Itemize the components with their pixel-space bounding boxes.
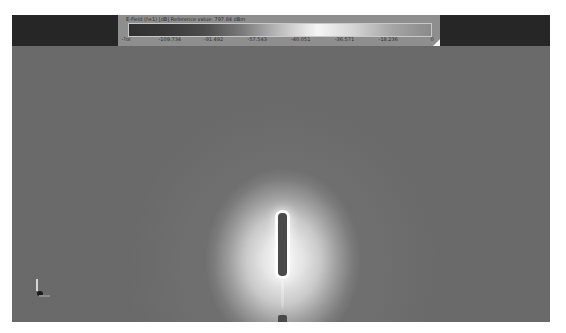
- resize-grip-icon[interactable]: [433, 39, 440, 46]
- colorbar-tick-label: -91.492: [204, 36, 223, 42]
- top-right-bar: [440, 15, 550, 46]
- top-left-bar: [12, 15, 118, 46]
- colorbar-tick-label: -40.051: [291, 36, 310, 42]
- field-plot-viewport[interactable]: E-Field (f=1) [dB] Reference value: 797.…: [12, 15, 550, 322]
- legend-title: E-Field (f=1) [dB] Reference value: 797.…: [126, 16, 245, 22]
- colorbar-tick-label: -?ol: [122, 36, 131, 42]
- antenna-element: [278, 213, 287, 276]
- color-legend-panel[interactable]: E-Field (f=1) [dB] Reference value: 797.…: [118, 15, 440, 46]
- z-axis-line: [36, 279, 38, 291]
- x-axis-line: [39, 295, 50, 297]
- colorbar-tick-label: -36.571: [335, 36, 354, 42]
- colorbar-tick-label: -109.734: [159, 36, 181, 42]
- colorbar: [128, 23, 432, 37]
- antenna-feed-base: [278, 315, 287, 322]
- axis-triad-icon: [34, 277, 56, 299]
- colorbar-tick-label: -18.236: [379, 36, 398, 42]
- colorbar-tick-label: -57.543: [248, 36, 267, 42]
- colorbar-ticks: -?ol-109.734-91.492-57.543-40.051-36.571…: [126, 36, 432, 44]
